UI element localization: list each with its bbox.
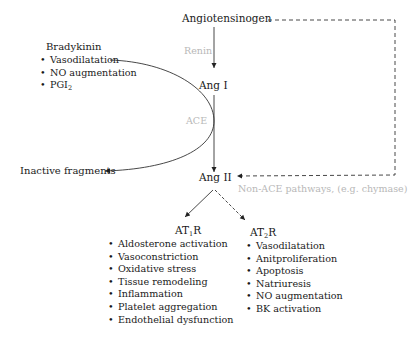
at2r-suffix: R [268,226,276,238]
list-item: Apoptosis [246,265,343,278]
at1r-suffix: R [193,224,201,236]
enzyme-non-ace-pathways: Non-ACE pathways, (e.g. chymase) [238,183,407,195]
pgi-subscript: 2 [68,84,72,92]
at1r-prefix: AT [175,224,189,236]
arrow-non-ace-pathway [237,20,395,176]
at2r-effects-list: Vasodilatation Anitproliferation Apoptos… [246,240,343,316]
list-item: PGI2 [40,79,137,92]
list-item: Vasoconstriction [108,251,233,264]
bradykinin-effects-list: Vasodilatation NO augmentation PGI2 [40,54,137,92]
node-ang1: Ang I [199,79,228,91]
list-item: NO augmentation [40,67,137,80]
list-item: Natriuresis [246,278,343,291]
list-item: Oxidative stress [108,263,233,276]
list-item: Tissue remodeling [108,276,233,289]
list-item: Vasodilatation [40,54,137,67]
list-item: Inflammation [108,288,233,301]
list-item: Endothelial dysfunction [108,314,233,327]
node-angiotensinogen: Angiotensinogen [182,12,271,24]
list-item: Aldosterone activation [108,238,233,251]
list-item: Vasodilatation [246,240,343,253]
receptor-at1r-label: AT1R [175,224,201,236]
node-inactive-fragments: Inactive fragments [20,165,116,177]
bradykinin-title: Bradykinin [46,41,101,53]
arrow-ang2-to-at1r [185,190,213,217]
at1r-effects-list: Aldosterone activation Vasoconstriction … [108,238,233,326]
at2r-prefix: AT [250,226,264,238]
pgi-label: PGI [50,79,68,90]
receptor-at2r-label: AT2R [250,226,276,238]
list-item: Platelet aggregation [108,301,233,314]
list-item: Anitproliferation [246,253,343,266]
enzyme-ace: ACE [186,115,207,127]
list-item: NO augmentation [246,290,343,303]
enzyme-renin: Renin [184,45,212,57]
list-item: BK activation [246,303,343,316]
node-ang2: Ang II [199,171,232,183]
